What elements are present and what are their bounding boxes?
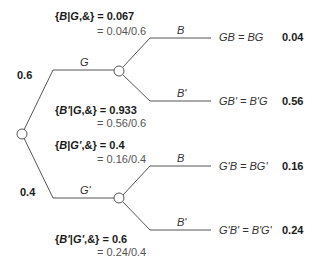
label-g-prime: G': [80, 185, 91, 196]
label-gp-b: B: [177, 153, 184, 164]
outcome-gb-prob: 0.04: [282, 32, 303, 43]
root-node: [17, 129, 27, 139]
outcome-gb-prime-prob: 0.56: [282, 96, 303, 107]
label-g-b: B: [177, 25, 184, 36]
ratio-b-prime-given-g-prime: = 0.24/0.4: [97, 247, 146, 258]
label-g-b-prime: B': [177, 88, 186, 99]
label-g: G: [80, 57, 89, 68]
branch-line-g-b-prime: [123, 75, 211, 101]
outcome-gpb-prime-prob: 0.24: [282, 225, 303, 236]
cond-b-prime-given-g: {B'|G,&} = 0.933: [55, 105, 137, 116]
outcome-gpb-prime: G'B' = B'G': [219, 225, 272, 236]
outcome-gb: GB = BG: [219, 32, 263, 43]
outcome-gpb-prob: 0.16: [282, 161, 303, 172]
branch-line-g-b: [123, 38, 211, 67]
branch-line-gp-b-prime: [123, 202, 211, 230]
cond-b-prime-given-g-prime: {B'|G',&} = 0.6: [55, 234, 127, 245]
branch-line-gp-b: [123, 166, 211, 195]
ratio-b-prime-given-g: = 0.56/0.6: [97, 118, 146, 129]
outcome-gpb: G'B = BG': [219, 161, 268, 172]
prob-g-prime: 0.4: [20, 187, 35, 198]
outcome-gb-prime: GB' = B'G: [219, 96, 268, 107]
ratio-b-given-g-prime: = 0.16/0.4: [97, 154, 146, 165]
node-g-prime: [114, 193, 124, 203]
label-gp-b-prime: B': [177, 217, 186, 228]
cond-b-given-g-prime: {B|G',&} = 0.4: [55, 140, 125, 151]
prob-g: 0.6: [17, 70, 32, 81]
cond-b-given-g: {B|G,&} = 0.067: [55, 11, 134, 22]
ratio-b-given-g: = 0.04/0.6: [97, 26, 146, 37]
node-g: [114, 66, 124, 76]
